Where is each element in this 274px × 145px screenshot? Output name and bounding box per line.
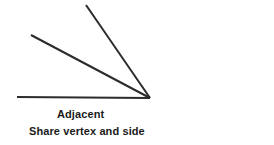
steep-ray	[86, 5, 150, 98]
caption-secondary: Share vertex and side	[0, 123, 274, 140]
caption-primary: Adjacent	[0, 106, 274, 123]
middle-ray	[31, 35, 150, 98]
adjacent-angles-figure: Adjacent Share vertex and side	[0, 0, 274, 145]
caption-block: Adjacent Share vertex and side	[0, 106, 274, 140]
horizontal-ray	[17, 97, 150, 98]
